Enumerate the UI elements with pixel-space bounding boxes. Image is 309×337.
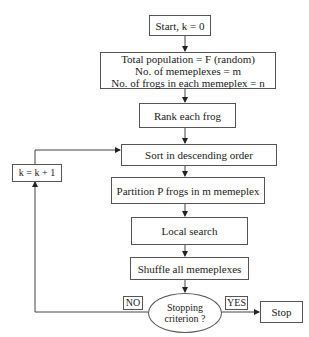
start-node: Start, k = 0: [149, 15, 211, 36]
no-label-text: NO: [126, 297, 140, 308]
start-node-label: Start, k = 0: [156, 20, 205, 32]
local-search-node-label: Local search: [162, 225, 218, 237]
shuffle-node-label: Shuffle all memeplexes: [138, 263, 242, 275]
sort-node-label: Sort in descending order: [145, 149, 253, 161]
partition-node: Partition P frogs in m memeplex: [111, 177, 265, 204]
no-edge-label: NO: [123, 296, 143, 310]
edge-increment-to-sort: [35, 150, 120, 165]
stop-node: Stop: [260, 301, 303, 323]
decision-node: Stopping criterion ?: [148, 293, 222, 333]
init-line-memeplexes: No. of memeplexes = m: [135, 65, 241, 77]
yes-label-text: YES: [227, 297, 246, 308]
decision-line-2: criterion ?: [165, 313, 206, 324]
yes-edge-label: YES: [225, 296, 248, 310]
partition-node-label: Partition P frogs in m memeplex: [117, 185, 260, 197]
init-line-frogs: No. of frogs in each memeplex = n: [111, 77, 264, 89]
stop-node-label: Stop: [271, 306, 291, 318]
increment-node: k = k + 1: [12, 164, 62, 182]
decision-line-1: Stopping: [167, 302, 203, 313]
shuffle-node: Shuffle all memeplexes: [130, 257, 249, 280]
sort-node: Sort in descending order: [121, 144, 277, 166]
increment-node-label: k = k + 1: [19, 167, 55, 179]
rank-node: Rank each frog: [139, 103, 236, 128]
init-line-population: Total population = F (random): [121, 53, 255, 65]
local-search-node: Local search: [131, 217, 248, 245]
init-node: Total population = F (random) No. of mem…: [100, 52, 276, 89]
rank-node-label: Rank each frog: [154, 110, 221, 122]
